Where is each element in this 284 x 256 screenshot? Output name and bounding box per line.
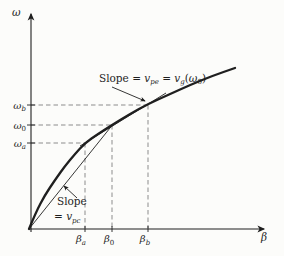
carrier-slope-annotation-line1: Slope <box>57 195 87 207</box>
envelope-slope-leader-arrow <box>112 87 145 101</box>
omega-a-tick-label: ωa <box>14 138 26 152</box>
beta-b-tick-label: βb <box>139 233 151 247</box>
horizontal-dashed-guides <box>31 105 148 143</box>
beta-a-tick-label: βa <box>75 233 86 247</box>
omega-beta-diagram: ω β ωb ω0 ωa βa β0 βb Slope = vpe = vg(ω… <box>0 0 284 256</box>
omega-0-tick-label: ω0 <box>13 120 26 134</box>
beta-0-tick-label: β0 <box>103 233 114 247</box>
carrier-slope-annotation-line2: = vpc <box>54 210 81 225</box>
figure-canvas: ω β ωb ω0 ωa βa β0 βb Slope = vpe = vg(ω… <box>0 0 284 256</box>
omega-b-tick-label: ωb <box>13 100 26 114</box>
omega-axis-label: ω <box>12 6 21 18</box>
beta-axis-label: β <box>260 231 267 243</box>
